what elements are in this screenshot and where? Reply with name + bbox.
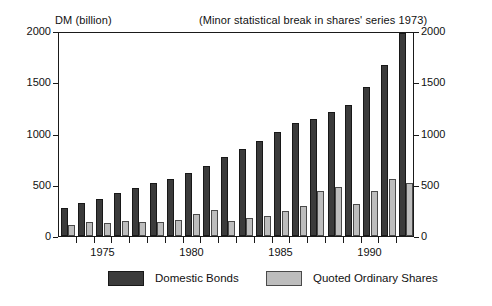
bar-quoted-ordinary-shares-1986 bbox=[300, 206, 307, 236]
x-tick-1 bbox=[76, 237, 77, 243]
y-label-right-1000: 1000 bbox=[421, 129, 445, 140]
y-tick-left-1000 bbox=[53, 135, 58, 136]
x-label-1985: 1985 bbox=[268, 246, 292, 258]
x-tick-17 bbox=[361, 237, 362, 243]
y-tick-right-1000 bbox=[414, 135, 419, 136]
y-label-left-1500: 1500 bbox=[27, 77, 51, 88]
bar-domestic-bonds-1977 bbox=[132, 188, 139, 236]
bar-quoted-ordinary-shares-1987 bbox=[317, 191, 324, 236]
y-label-left-0: 0 bbox=[45, 231, 51, 242]
x-tick-16 bbox=[343, 237, 344, 243]
bar-quoted-ordinary-shares-1978 bbox=[157, 222, 164, 236]
x-tick-3 bbox=[111, 237, 112, 243]
bar-domestic-bonds-1984 bbox=[256, 141, 263, 236]
bar-quoted-ordinary-shares-1973 bbox=[68, 225, 75, 236]
y-label-left-500: 500 bbox=[33, 180, 51, 191]
bar-quoted-ordinary-shares-1989 bbox=[353, 204, 360, 236]
y-tick-left-1500 bbox=[53, 83, 58, 84]
y-tick-right-2000 bbox=[414, 32, 419, 33]
y-label-right-2000: 2000 bbox=[421, 26, 445, 37]
bar-quoted-ordinary-shares-1984 bbox=[264, 216, 271, 237]
bar-quoted-ordinary-shares-1976 bbox=[122, 221, 129, 236]
x-tick-5 bbox=[147, 237, 148, 243]
x-tick-7 bbox=[183, 237, 184, 243]
y-label-right-500: 500 bbox=[421, 180, 439, 191]
bar-domestic-bonds-1979 bbox=[167, 179, 174, 236]
legend-label-quoted-ordinary-shares: Quoted Ordinary Shares bbox=[313, 272, 438, 284]
bar-quoted-ordinary-shares-1975 bbox=[104, 223, 111, 236]
x-tick-13 bbox=[289, 237, 290, 243]
chart-annotation-note: (Minor statistical break in shares' seri… bbox=[199, 14, 427, 26]
y-label-right-0: 0 bbox=[421, 231, 427, 242]
plot-area bbox=[58, 32, 414, 237]
bar-domestic-bonds-1978 bbox=[150, 183, 157, 236]
bar-domestic-bonds-1988 bbox=[328, 112, 335, 236]
bar-domestic-bonds-1975 bbox=[96, 199, 103, 236]
y-tick-left-0 bbox=[53, 237, 58, 238]
y-tick-left-500 bbox=[53, 186, 58, 187]
bar-domestic-bonds-1986 bbox=[292, 123, 299, 236]
bar-quoted-ordinary-shares-1991 bbox=[389, 179, 396, 236]
bar-quoted-ordinary-shares-1981 bbox=[211, 210, 218, 236]
bar-domestic-bonds-1982 bbox=[221, 157, 228, 236]
x-tick-14 bbox=[307, 237, 308, 243]
y-label-left-1000: 1000 bbox=[27, 129, 51, 140]
bar-domestic-bonds-1985 bbox=[274, 132, 281, 236]
bar-domestic-bonds-1981 bbox=[203, 166, 210, 236]
bar-domestic-bonds-1989 bbox=[345, 105, 352, 236]
y-tick-right-1500 bbox=[414, 83, 419, 84]
y-label-right-1500: 1500 bbox=[421, 77, 445, 88]
x-tick-12 bbox=[272, 237, 273, 243]
y-axis-title: DM (billion) bbox=[55, 14, 112, 26]
x-tick-9 bbox=[218, 237, 219, 243]
y-tick-left-2000 bbox=[53, 32, 58, 33]
bar-domestic-bonds-1987 bbox=[310, 119, 317, 236]
bar-quoted-ordinary-shares-1985 bbox=[282, 211, 289, 236]
bar-quoted-ordinary-shares-1979 bbox=[175, 220, 182, 236]
bar-quoted-ordinary-shares-1977 bbox=[139, 222, 146, 236]
chart-legend: Domestic Bonds Quoted Ordinary Shares bbox=[0, 268, 492, 292]
bar-quoted-ordinary-shares-1974 bbox=[86, 222, 93, 236]
y-label-left-2000: 2000 bbox=[27, 26, 51, 37]
x-label-1975: 1975 bbox=[90, 246, 114, 258]
bar-quoted-ordinary-shares-1990 bbox=[371, 191, 378, 236]
bar-domestic-bonds-1974 bbox=[78, 203, 85, 236]
y-tick-right-500 bbox=[414, 186, 419, 187]
bar-quoted-ordinary-shares-1980 bbox=[193, 214, 200, 236]
bar-chart: DM (billion) (Minor statistical break in… bbox=[0, 0, 492, 306]
x-tick-2 bbox=[94, 237, 95, 243]
x-label-1990: 1990 bbox=[357, 246, 381, 258]
legend-swatch-domestic-bonds bbox=[108, 271, 144, 286]
bar-domestic-bonds-1980 bbox=[185, 173, 192, 236]
bar-domestic-bonds-1976 bbox=[114, 193, 121, 236]
x-tick-18 bbox=[378, 237, 379, 243]
bar-quoted-ordinary-shares-1988 bbox=[335, 187, 342, 236]
x-tick-19 bbox=[396, 237, 397, 243]
bar-domestic-bonds-1983 bbox=[239, 149, 246, 236]
x-tick-15 bbox=[325, 237, 326, 243]
bar-domestic-bonds-1991 bbox=[381, 65, 388, 236]
x-tick-10 bbox=[236, 237, 237, 243]
bar-quoted-ordinary-shares-1992 bbox=[406, 183, 413, 236]
bar-domestic-bonds-1973 bbox=[61, 208, 68, 236]
x-tick-11 bbox=[254, 237, 255, 243]
bar-quoted-ordinary-shares-1983 bbox=[246, 218, 253, 236]
x-label-1980: 1980 bbox=[179, 246, 203, 258]
bar-domestic-bonds-1990 bbox=[363, 87, 370, 236]
legend-item-domestic-bonds: Domestic Bonds bbox=[108, 268, 239, 288]
legend-item-quoted-ordinary-shares: Quoted Ordinary Shares bbox=[266, 268, 438, 288]
legend-swatch-quoted-ordinary-shares bbox=[266, 271, 302, 286]
x-tick-4 bbox=[129, 237, 130, 243]
bar-domestic-bonds-1992 bbox=[399, 33, 406, 236]
x-tick-6 bbox=[165, 237, 166, 243]
legend-label-domestic-bonds: Domestic Bonds bbox=[155, 272, 239, 284]
y-tick-right-0 bbox=[414, 237, 419, 238]
x-tick-8 bbox=[200, 237, 201, 243]
bar-quoted-ordinary-shares-1982 bbox=[228, 221, 235, 236]
